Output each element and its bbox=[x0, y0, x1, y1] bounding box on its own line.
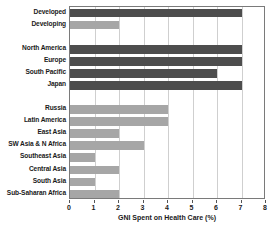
bar bbox=[70, 45, 242, 54]
tick-mark bbox=[216, 200, 217, 203]
bar-row bbox=[70, 69, 264, 78]
category-label: Sub-Saharan Africa bbox=[0, 190, 66, 197]
bar-chart: DevelopedDevelopingNorth AmericaEuropeSo… bbox=[0, 0, 271, 229]
bar bbox=[70, 117, 168, 126]
tick-mark bbox=[118, 200, 119, 203]
tick-label: 6 bbox=[209, 204, 223, 211]
bar-row bbox=[70, 45, 264, 54]
category-label: Latin America bbox=[0, 117, 66, 124]
category-label: Europe bbox=[0, 57, 66, 64]
tick-mark bbox=[143, 200, 144, 203]
bar-row bbox=[70, 190, 264, 199]
bar bbox=[70, 81, 242, 90]
tick-mark bbox=[94, 200, 95, 203]
tick-label: 0 bbox=[62, 204, 76, 211]
category-label: Russia bbox=[0, 105, 66, 112]
bar-row bbox=[70, 81, 264, 90]
category-label: Central Asia bbox=[0, 166, 66, 173]
bar bbox=[70, 178, 95, 187]
bar bbox=[70, 166, 119, 175]
category-label: Developing bbox=[0, 21, 66, 28]
tick-label: 1 bbox=[87, 204, 101, 211]
bar-row bbox=[70, 178, 264, 187]
tick-mark bbox=[241, 200, 242, 203]
plot-area bbox=[69, 6, 265, 199]
bar bbox=[70, 190, 119, 199]
bar-row bbox=[70, 153, 264, 162]
x-axis-ticks: 012345678 bbox=[69, 200, 265, 212]
tick-mark bbox=[192, 200, 193, 203]
bar-row bbox=[70, 117, 264, 126]
category-axis-labels: DevelopedDevelopingNorth AmericaEuropeSo… bbox=[0, 6, 66, 199]
category-label: Developed bbox=[0, 9, 66, 16]
bar bbox=[70, 21, 119, 30]
tick-mark bbox=[167, 200, 168, 203]
bar bbox=[70, 57, 242, 66]
tick-mark bbox=[69, 200, 70, 203]
category-label: South Pacific bbox=[0, 69, 66, 76]
tick-label: 5 bbox=[185, 204, 199, 211]
tick-label: 8 bbox=[258, 204, 271, 211]
bar-row bbox=[70, 105, 264, 114]
x-axis-title: GNI Spent on Health Care (%) bbox=[69, 214, 265, 221]
bar bbox=[70, 153, 95, 162]
bar bbox=[70, 105, 168, 114]
bar bbox=[70, 69, 217, 78]
tick-label: 2 bbox=[111, 204, 125, 211]
bar bbox=[70, 9, 242, 18]
bar-row bbox=[70, 21, 264, 30]
category-label: South Asia bbox=[0, 178, 66, 185]
category-label: Southeast Asia bbox=[0, 153, 66, 160]
bar-row bbox=[70, 9, 264, 18]
bar-row bbox=[70, 57, 264, 66]
category-label: Japan bbox=[0, 81, 66, 88]
tick-label: 7 bbox=[234, 204, 248, 211]
bar bbox=[70, 129, 119, 138]
bar-row bbox=[70, 129, 264, 138]
tick-label: 4 bbox=[160, 204, 174, 211]
bar bbox=[70, 141, 144, 150]
category-label: SW Asia & N Africa bbox=[0, 141, 66, 148]
category-label: East Asia bbox=[0, 129, 66, 136]
tick-mark bbox=[265, 200, 266, 203]
bar-series bbox=[70, 7, 264, 198]
category-label: North America bbox=[0, 45, 66, 52]
tick-label: 3 bbox=[136, 204, 150, 211]
bar-row bbox=[70, 141, 264, 150]
bar-row bbox=[70, 166, 264, 175]
